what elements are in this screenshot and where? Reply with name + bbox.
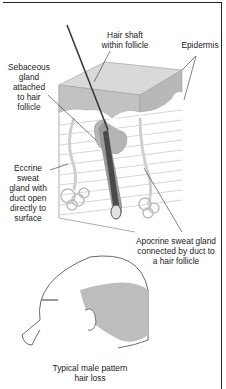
label-apocrine-gland: Apocrine sweat gland connected by duct t…: [128, 236, 224, 266]
label-sebaceous-gland: Sebaceous gland attached to hair follicl…: [6, 62, 52, 112]
caption-male-pattern-hair-loss: Typical male pattern hair loss: [40, 363, 140, 383]
label-eccrine-gland: Eccrine sweat gland with duct open direc…: [4, 163, 52, 223]
label-epidermis: Epidermis: [178, 40, 222, 50]
dermis-lines: [60, 110, 182, 215]
label-hair-shaft: Hair shaft within follicle: [95, 30, 155, 50]
